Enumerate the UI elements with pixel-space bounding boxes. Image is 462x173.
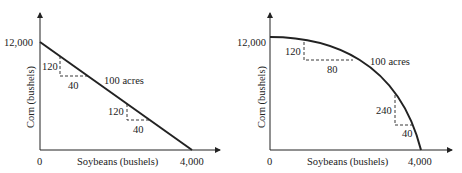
- right-x-origin: 0: [267, 156, 272, 167]
- left-y-label: Corn (bushels): [25, 65, 37, 128]
- left-x-label: Soybeans (bushels): [77, 156, 159, 168]
- left-curve-label: 100 acres: [104, 75, 144, 86]
- right-y-label: Corn (bushels): [256, 65, 268, 128]
- right-x-tick: 4,000: [408, 156, 432, 167]
- right-y-tick: 12,000: [237, 37, 266, 48]
- left-x-tick: 4,000: [180, 156, 204, 167]
- right-x-label: Soybeans (bushels): [307, 156, 389, 168]
- left-rise-2: 120: [108, 106, 124, 117]
- right-slope-marker-2: [395, 95, 412, 125]
- left-run-2: 40: [133, 124, 144, 135]
- left-ppf-line: [40, 42, 192, 150]
- left-chart: 12,000 0 4,000 Soybeans (bushels) Corn (…: [4, 13, 220, 168]
- left-rise-1: 120: [42, 61, 58, 72]
- left-run-1: 40: [68, 80, 79, 91]
- left-y-tick: 12,000: [4, 37, 33, 48]
- right-chart: 12,000 0 4,000 Soybeans (bushels) Corn (…: [237, 13, 452, 168]
- right-rise-1: 120: [285, 46, 301, 57]
- right-run-2: 40: [402, 128, 413, 139]
- ppf-diagrams: 12,000 0 4,000 Soybeans (bushels) Corn (…: [0, 0, 462, 173]
- right-rise-2: 240: [376, 105, 392, 116]
- right-curve-label: 100 acres: [370, 56, 410, 67]
- left-x-origin: 0: [37, 156, 42, 167]
- right-run-1: 80: [327, 64, 338, 75]
